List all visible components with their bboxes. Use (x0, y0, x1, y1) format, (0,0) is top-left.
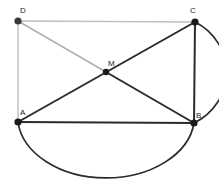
vertex-label-A: A (20, 108, 26, 117)
vertex-label-C: C (190, 6, 196, 15)
segment-DM (18, 21, 106, 72)
segment-AB (18, 122, 194, 123)
vertex-dot-D (14, 17, 21, 24)
vertex-dot-A (14, 118, 21, 125)
arc-AB-semicircle (18, 122, 194, 178)
vertex-label-D: D (20, 6, 26, 15)
vertex-dot-B (190, 119, 197, 126)
arc-CB (194, 22, 219, 123)
vertex-dot-M (103, 69, 109, 75)
segment-CB (194, 22, 195, 123)
figure-svg: D C A B M (0, 0, 219, 190)
vertex-dot-C (191, 18, 198, 25)
segment-DC (18, 21, 195, 22)
segment-MB (106, 72, 194, 123)
vertex-label-B: B (196, 111, 201, 120)
geometry-figure: D C A B M (0, 0, 219, 190)
vertex-label-M: M (108, 59, 115, 68)
